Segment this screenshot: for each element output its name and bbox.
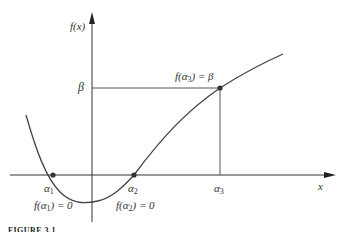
alpha2-label: α2: [128, 182, 138, 196]
alpha1-label: α1: [44, 182, 54, 196]
alpha3-label: α3: [214, 182, 224, 196]
figure-canvas: [0, 0, 345, 232]
point3-annotation: f(α3) = β: [175, 70, 214, 84]
y-axis-label: f(x): [70, 20, 85, 32]
root1-annotation: f(α1) = 0: [34, 199, 73, 213]
root-alpha1-point: [50, 172, 55, 177]
x-axis-label: x: [318, 180, 323, 192]
root2-annotation: f(α2) = 0: [116, 199, 155, 213]
alpha3-point: [217, 85, 222, 90]
beta-label: β: [78, 80, 84, 95]
y-axis-arrow-icon: [89, 12, 95, 24]
function-curve: [26, 54, 283, 203]
root-alpha2-point: [131, 172, 136, 177]
x-axis-arrow-icon: [324, 172, 336, 178]
figure-caption: FIGURE 3.1: [8, 226, 56, 232]
